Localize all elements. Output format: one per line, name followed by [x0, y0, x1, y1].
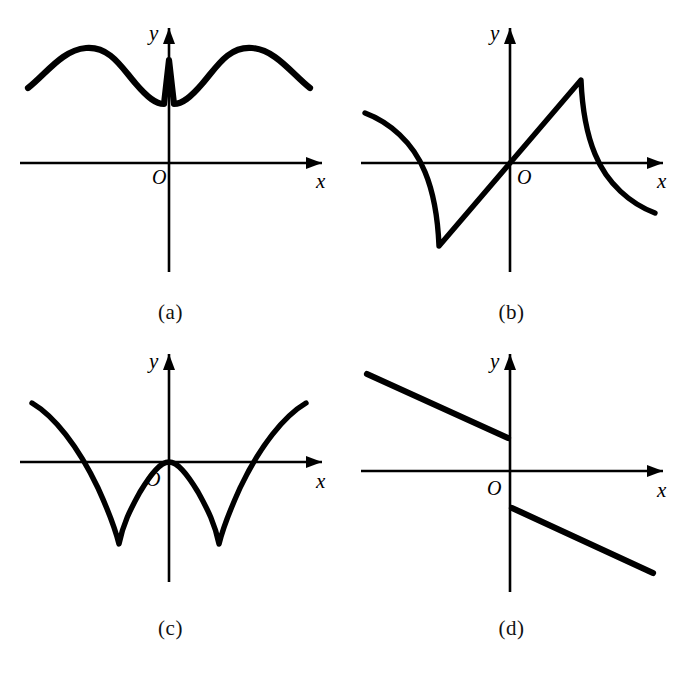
origin-label-b: O	[517, 166, 531, 188]
x-axis-arrow-c	[306, 456, 322, 468]
panel-b-plot: O x y	[347, 0, 677, 290]
curve-d-left-segment	[367, 374, 508, 438]
panel-a: O x y (a)	[0, 0, 341, 338]
origin-label-d: O	[487, 477, 501, 499]
y-axis-arrow-c	[163, 354, 175, 370]
x-axis-arrow-b	[647, 157, 663, 169]
y-axis-label-d: y	[488, 349, 500, 373]
x-axis-label-b: x	[656, 169, 667, 193]
panel-b: O x y (b)	[341, 0, 682, 338]
y-axis-arrow-b	[504, 28, 516, 44]
x-axis-arrow-a	[306, 157, 322, 169]
y-axis-label-c: y	[147, 349, 159, 373]
panel-caption-c: (c)	[158, 618, 183, 639]
panel-d: O x y (d)	[341, 338, 682, 677]
y-axis-label-b: y	[488, 21, 500, 45]
x-axis-label-a: x	[315, 169, 326, 193]
panel-a-plot: O x y	[6, 0, 336, 290]
panel-d-plot: O x y	[347, 338, 677, 608]
x-axis-arrow-d	[647, 465, 663, 477]
y-axis-arrow-a	[163, 28, 175, 44]
panel-c-plot: O x y	[6, 338, 336, 608]
origin-label-a: O	[152, 166, 166, 188]
curve-d-right-segment	[512, 508, 653, 573]
y-axis-arrow-d	[504, 354, 516, 370]
x-axis-label-c: x	[315, 469, 326, 493]
panel-c: O x y (c)	[0, 338, 341, 677]
panel-caption-a: (a)	[158, 302, 183, 323]
figure-grid: O x y (a) O x y (b) O x y	[0, 0, 682, 677]
x-axis-label-d: x	[656, 478, 667, 502]
panel-caption-d: (d)	[499, 618, 525, 639]
y-axis-label-a: y	[147, 21, 159, 45]
origin-label-c: O	[146, 468, 160, 490]
panel-caption-b: (b)	[499, 302, 525, 323]
